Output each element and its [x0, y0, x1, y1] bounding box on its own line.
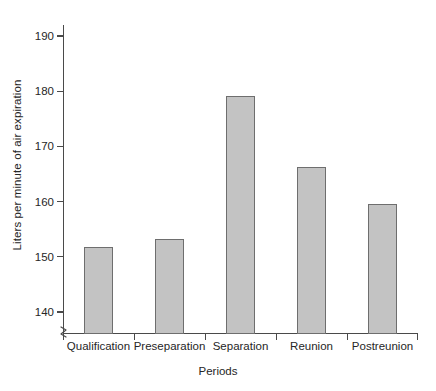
y-axis-tick — [57, 201, 63, 202]
y-axis-tick-label: 180 — [35, 85, 54, 97]
x-axis-tick — [347, 334, 348, 340]
y-axis-tick — [57, 256, 63, 257]
y-axis-title-text: Liters per minute of air expiration — [11, 80, 23, 251]
x-axis-tick-label: Preseparation — [134, 340, 206, 352]
y-axis-tick-label: 160 — [35, 196, 54, 208]
y-axis-title: Liters per minute of air expiration — [8, 0, 26, 330]
y-axis-tick-label: 150 — [35, 251, 54, 263]
y-axis-tick — [57, 91, 63, 92]
y-axis-spine — [63, 25, 64, 334]
y-axis-tick-label: 190 — [35, 30, 54, 42]
x-axis-tick-label: Reunion — [290, 340, 333, 352]
x-axis-tick — [417, 334, 418, 340]
y-axis-tick-label: 140 — [35, 306, 54, 318]
bar — [155, 239, 183, 334]
bar — [84, 247, 112, 334]
x-axis-title: Periods — [0, 365, 436, 377]
y-axis-tick — [57, 311, 63, 312]
x-axis-tick-label: Qualification — [67, 340, 130, 352]
bar — [368, 204, 396, 334]
y-axis-tick — [57, 35, 63, 36]
x-axis-tick-label: Postreunion — [352, 340, 413, 352]
y-axis-tick — [57, 146, 63, 147]
x-axis-tick — [276, 334, 277, 340]
x-axis-title-text: Periods — [199, 365, 238, 377]
bar-chart-figure: Liters per minute of air expiration 1401… — [0, 0, 436, 391]
x-axis-tick-label: Separation — [213, 340, 269, 352]
bar — [226, 96, 254, 334]
plot-area: 140150160170180190 — [63, 25, 418, 334]
y-axis-tick-label: 170 — [35, 140, 54, 152]
bar — [297, 167, 325, 334]
